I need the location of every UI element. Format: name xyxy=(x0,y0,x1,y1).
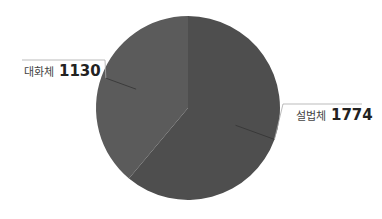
slice-label-daehwache: 대화체 1130 xyxy=(24,62,101,80)
slice-value: 1774 xyxy=(331,106,373,124)
slice-value: 1130 xyxy=(59,62,101,80)
slice-category: 대화체 xyxy=(24,63,54,79)
slice-label-seolbeopche: 설법체 1774 xyxy=(296,106,373,124)
slice-category: 설법체 xyxy=(296,107,326,123)
